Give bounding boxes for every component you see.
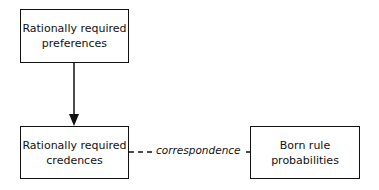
node-label-line2: probabilities (271, 153, 339, 168)
arrowhead-icon (69, 114, 79, 126)
node-rationally-required-preferences: Rationally required preferences (20, 9, 129, 63)
node-label-line2: credences (22, 153, 126, 168)
node-label-line1: Rationally required (22, 21, 126, 36)
node-label-line1: Rationally required (22, 138, 126, 153)
edge-label-correspondence: correspondence (155, 144, 242, 156)
node-rationally-required-credences: Rationally required credences (20, 126, 129, 179)
node-born-rule-probabilities: Born rule probabilities (250, 126, 360, 179)
node-label-line2: preferences (22, 36, 126, 51)
node-label-line1: Born rule (271, 138, 339, 153)
